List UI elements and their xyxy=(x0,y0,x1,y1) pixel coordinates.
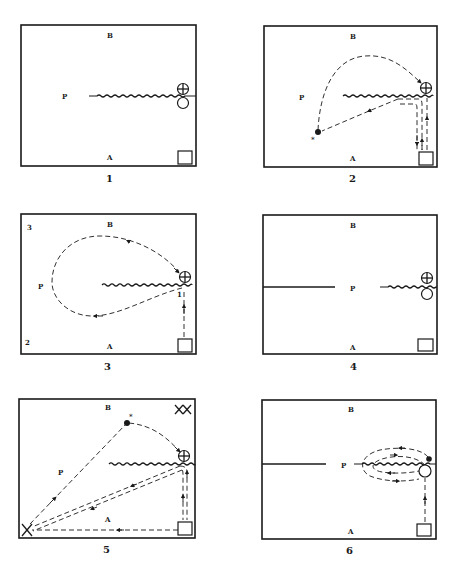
panel-caption: 5 xyxy=(103,544,110,555)
label-b: B xyxy=(348,405,354,414)
diag-arrow-2 xyxy=(92,507,97,509)
open-circle-icon xyxy=(422,289,433,300)
wavy-barrier xyxy=(102,284,192,286)
corner-label-2: 2 xyxy=(25,338,30,347)
filled-dot-icon xyxy=(426,456,432,462)
x-icon xyxy=(22,524,32,536)
label-a: A xyxy=(104,515,111,524)
figure-canvas: B P A 1 B P A * xyxy=(0,0,455,567)
label-b: B xyxy=(350,32,356,41)
label-p: P xyxy=(350,284,356,293)
wavy-barrier xyxy=(380,286,437,288)
path-dot-to-target xyxy=(129,423,179,451)
start-box-icon xyxy=(419,152,433,165)
path-loop xyxy=(52,236,182,316)
label-a: A xyxy=(349,154,356,163)
loop-arrow-top xyxy=(128,241,130,242)
label-p: P xyxy=(341,461,347,470)
open-circle-icon xyxy=(419,465,431,477)
open-circle-icon xyxy=(178,98,189,109)
wavy-barrier xyxy=(89,95,196,97)
corner-label-3: 3 xyxy=(27,223,32,232)
label-p: P xyxy=(38,282,44,291)
path-inner-down xyxy=(400,104,417,152)
star-mark: * xyxy=(129,412,133,421)
panel-3: B P A 3 2 1 3 xyxy=(21,214,196,372)
target-arrow xyxy=(175,447,179,451)
label-b: B xyxy=(107,31,113,40)
label-p: P xyxy=(62,92,68,101)
panel-4: B P A 4 xyxy=(263,215,437,372)
path-arc-to-target xyxy=(318,56,420,130)
path-bend-1 xyxy=(180,466,187,520)
label-b: B xyxy=(350,221,356,230)
crossed-circle-icon xyxy=(178,84,189,95)
label-b: B xyxy=(105,403,111,412)
path-return-to-dot xyxy=(322,111,369,131)
panel-1: B P A 1 xyxy=(21,25,196,184)
panel-caption: 1 xyxy=(106,173,113,184)
panel-5: B P A * xyxy=(19,399,195,555)
label-a: A xyxy=(349,343,356,352)
panel-6: B P A 6 xyxy=(262,400,436,556)
star-mark: * xyxy=(311,135,315,144)
panel-2: B P A * 2 xyxy=(264,26,437,184)
double-x-icon xyxy=(175,405,191,414)
path-outer-down xyxy=(398,99,422,150)
label-a: A xyxy=(347,527,354,536)
path-bend-2 xyxy=(182,470,183,520)
wavy-barrier xyxy=(109,463,195,465)
panel-caption: 4 xyxy=(350,361,357,372)
start-box-icon xyxy=(418,339,433,351)
label-b: B xyxy=(107,220,113,229)
start-box-icon xyxy=(178,151,192,164)
panel-caption: 3 xyxy=(104,361,111,372)
crossed-circle-icon xyxy=(179,451,190,462)
wavy-barrier xyxy=(343,95,433,97)
label-p: P xyxy=(58,468,64,477)
crossed-circle-icon xyxy=(421,83,432,94)
label-a: A xyxy=(106,153,113,162)
crossed-circle-icon xyxy=(180,272,191,283)
panel-caption: 2 xyxy=(349,173,356,184)
label-p: P xyxy=(299,93,305,102)
path-return-segment xyxy=(369,99,398,111)
path-x-to-dot xyxy=(30,423,127,524)
panel-6-frame xyxy=(262,400,436,539)
crossed-circle-icon xyxy=(422,273,433,284)
path-marker-1: 1 xyxy=(177,290,182,299)
label-a: A xyxy=(106,342,113,351)
start-box-icon xyxy=(178,522,192,535)
panel-caption: 6 xyxy=(346,545,353,556)
start-box-icon xyxy=(417,524,431,536)
start-box-icon xyxy=(178,339,192,352)
